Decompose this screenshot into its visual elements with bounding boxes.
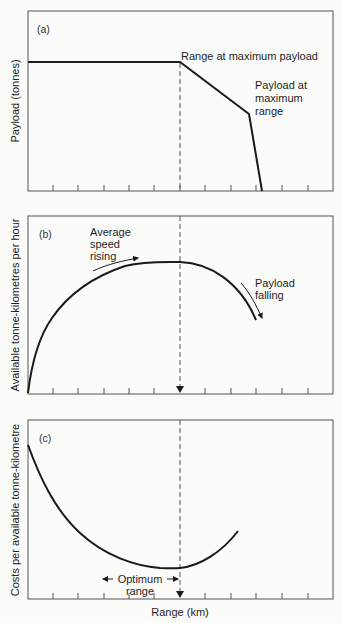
- panel-b-annotation-speed-rising-3: rising: [90, 250, 116, 262]
- panel-a-y-axis-label: Payload (tonnes): [9, 59, 21, 142]
- panel-b-annotation-payload-falling-1: Payload: [255, 277, 295, 289]
- panel-a: (a) Range at maximum payload Payload at …: [9, 11, 333, 191]
- panel-a-annotation-payload-at-max-range-1: Payload at: [255, 79, 307, 91]
- panel-a-annotation-payload-at-max-range-3: range: [255, 105, 283, 117]
- panel-c-annotation-optimum-range-1: Optimum: [118, 573, 163, 585]
- panel-b-y-axis-label: Available tonne-kilometres per hour: [9, 218, 21, 391]
- panel-b-tag: (b): [39, 228, 52, 240]
- panel-c-tag: (c): [39, 432, 51, 444]
- panel-b-annotation-speed-rising-1: Average: [90, 226, 131, 238]
- panel-c-annotation-optimum-range-2: range: [126, 585, 154, 597]
- panel-c-cost-curve: [28, 445, 238, 568]
- panel-a-tag: (a): [37, 23, 50, 35]
- panel-a-annotation-range-at-max-payload: Range at maximum payload: [181, 50, 318, 62]
- panel-a-payload-range-curve: [28, 62, 262, 191]
- panel-b-annotation-payload-falling-2: falling: [255, 289, 284, 301]
- panel-c: (c) Optimum range Costs per available to…: [9, 420, 333, 599]
- panel-a-annotation-payload-at-max-range-2: maximum: [255, 92, 303, 104]
- panel-c-y-axis-label: Costs per available tonne-kilometre: [9, 424, 21, 596]
- panel-b-productivity-curve: [28, 262, 256, 393]
- panel-b-annotation-speed-rising-2: speed: [90, 238, 120, 250]
- figure-canvas: (a) Range at maximum payload Payload at …: [0, 0, 342, 623]
- x-axis-label: Range (km): [151, 606, 208, 618]
- panel-b: (b) Average speed rising Payload falling…: [9, 216, 333, 394]
- panel-b-down-arrow-icon: [176, 386, 184, 393]
- panel-c-down-arrow-icon: [176, 591, 184, 598]
